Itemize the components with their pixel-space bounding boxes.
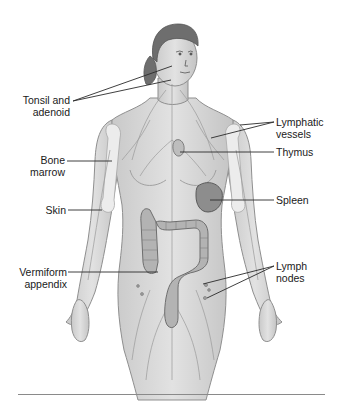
lymphatic-system-diagram: Tonsil and adenoid Bone marrow Skin Verm… bbox=[0, 0, 342, 403]
label-line: Tonsil and bbox=[23, 94, 70, 106]
label-thymus: Thymus bbox=[276, 146, 313, 158]
label-lymphatic-vessels: Lymphatic vessels bbox=[276, 116, 323, 140]
label-line: appendix bbox=[19, 278, 67, 290]
label-line: adenoid bbox=[23, 106, 70, 118]
label-skin: Skin bbox=[46, 204, 66, 216]
label-line: nodes bbox=[276, 272, 307, 284]
label-lymph-nodes: Lymph nodes bbox=[276, 260, 307, 284]
label-line: Vermiform bbox=[19, 266, 67, 278]
label-line: Spleen bbox=[276, 194, 309, 206]
label-line: marrow bbox=[30, 166, 65, 178]
label-line: Thymus bbox=[276, 146, 313, 158]
label-line: Bone bbox=[30, 154, 65, 166]
label-line: Skin bbox=[46, 204, 66, 216]
label-bone-marrow: Bone marrow bbox=[30, 154, 65, 178]
label-spleen: Spleen bbox=[276, 194, 309, 206]
label-line: vessels bbox=[276, 128, 323, 140]
label-line: Lymphatic bbox=[276, 116, 323, 128]
label-line: Lymph bbox=[276, 260, 307, 272]
label-vermiform-appendix: Vermiform appendix bbox=[19, 266, 67, 290]
bottom-divider bbox=[18, 394, 325, 395]
label-tonsil-and-adenoid: Tonsil and adenoid bbox=[23, 94, 70, 118]
spleen bbox=[196, 183, 222, 212]
thymus bbox=[173, 140, 184, 156]
